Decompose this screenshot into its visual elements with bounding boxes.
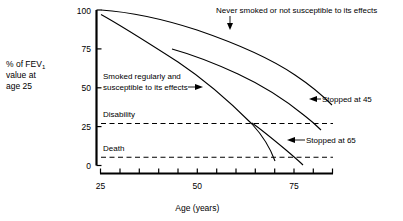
y-tick-label-25: 25 bbox=[82, 122, 92, 132]
y-axis-title-line-3: age 25 bbox=[6, 81, 32, 91]
x-axis-title: Age (years) bbox=[175, 203, 219, 213]
arrow-right-icon bbox=[195, 84, 203, 90]
y-tick-label-0: 0 bbox=[86, 161, 91, 171]
death-threshold: Death bbox=[101, 144, 333, 157]
curve-stopped-at-65 bbox=[252, 123, 303, 165]
x-tick-label-50: 50 bbox=[193, 181, 203, 191]
svg-text:% of FEV1: % of FEV1 bbox=[6, 59, 46, 70]
chart-canvas: 100 75 50 25 0 25 50 75 Age (years) % of… bbox=[0, 0, 403, 221]
y-axis-title-subscript: 1 bbox=[42, 64, 46, 70]
stopped-at-65-annotation: Stopped at 65 bbox=[287, 136, 356, 145]
arrow-left-icon-45 bbox=[309, 96, 317, 102]
disability-threshold-label: Disability bbox=[103, 110, 135, 119]
arrow-left-icon-65 bbox=[287, 137, 295, 143]
stopped-at-65-annotation-label: Stopped at 65 bbox=[306, 136, 356, 145]
y-axis bbox=[97, 10, 102, 166]
x-tick-label-25: 25 bbox=[96, 181, 106, 191]
y-tick-label-50: 50 bbox=[82, 83, 92, 93]
never-smoked-annotation: Never smoked or not susceptible to its e… bbox=[216, 6, 377, 30]
smoked-regularly-annotation-line-2: susceptible to its effects bbox=[103, 83, 188, 92]
stopped-at-45-annotation-label: Stopped at 45 bbox=[322, 95, 372, 104]
disability-threshold: Disability bbox=[101, 110, 333, 124]
stopped-at-45-annotation: Stopped at 45 bbox=[309, 95, 372, 104]
x-tick-label-75: 75 bbox=[289, 181, 299, 191]
never-smoked-annotation-label: Never smoked or not susceptible to its e… bbox=[216, 6, 377, 15]
smoked-regularly-annotation: Smoked regularly and susceptible to its … bbox=[103, 72, 203, 92]
x-axis bbox=[100, 169, 333, 174]
y-axis-title: % of FEV1 value at age 25 bbox=[6, 59, 46, 91]
y-axis-title-line-1: % of FEV bbox=[6, 59, 42, 69]
smoked-regularly-annotation-line-1: Smoked regularly and bbox=[103, 72, 181, 81]
y-tick-label-75: 75 bbox=[82, 44, 92, 54]
fev1-decline-chart: 100 75 50 25 0 25 50 75 Age (years) % of… bbox=[0, 0, 403, 221]
death-threshold-label: Death bbox=[103, 144, 124, 153]
arrow-down-icon bbox=[227, 23, 233, 30]
y-tick-label-100: 100 bbox=[77, 6, 91, 16]
y-axis-title-line-2: value at bbox=[6, 70, 36, 80]
